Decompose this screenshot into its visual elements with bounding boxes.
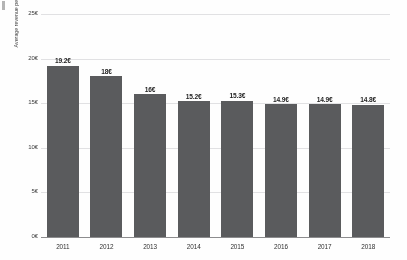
scan-artifact bbox=[2, 1, 5, 10]
x-tick-label-2013: 2013 bbox=[127, 243, 173, 250]
y-tick-label-20eur: 20€ bbox=[16, 55, 38, 61]
bar-2018[interactable] bbox=[352, 105, 384, 237]
bar-group-2015[interactable]: 15.3€ bbox=[221, 14, 253, 237]
bar-2014[interactable] bbox=[178, 101, 210, 237]
y-tick-label-0eur: 0€ bbox=[16, 233, 38, 239]
bar-group-2011[interactable]: 19.2€ bbox=[47, 14, 79, 237]
bar-chart: Average revenue per user in euros per mo… bbox=[0, 0, 407, 260]
bar-value-label-2013: 16€ bbox=[127, 86, 173, 93]
x-tick-label-2016: 2016 bbox=[258, 243, 304, 250]
gridline-0eur bbox=[41, 237, 390, 238]
bar-group-2014[interactable]: 15.2€ bbox=[178, 14, 210, 237]
y-tick-label-5eur: 5€ bbox=[16, 188, 38, 194]
bar-2016[interactable] bbox=[265, 104, 297, 237]
bar-value-label-2015: 15.3€ bbox=[214, 92, 260, 99]
bar-group-2013[interactable]: 16€ bbox=[134, 14, 166, 237]
bar-group-2018[interactable]: 14.8€ bbox=[352, 14, 384, 237]
y-tick-label-15eur: 15€ bbox=[16, 99, 38, 105]
y-tick-label-25eur: 25€ bbox=[16, 10, 38, 16]
bar-group-2016[interactable]: 14.9€ bbox=[265, 14, 297, 237]
x-tick-label-2012: 2012 bbox=[83, 243, 129, 250]
bar-value-label-2017: 14.9€ bbox=[302, 96, 348, 103]
plot-area: 19.2€18€16€15.2€15.3€14.9€14.9€14.8€ bbox=[41, 14, 390, 237]
bar-value-label-2016: 14.9€ bbox=[258, 96, 304, 103]
bar-2015[interactable] bbox=[221, 101, 253, 237]
bar-value-label-2018: 14.8€ bbox=[345, 96, 391, 103]
x-tick-label-2011: 2011 bbox=[40, 243, 86, 250]
bar-2017[interactable] bbox=[309, 104, 341, 237]
x-tick-label-2018: 2018 bbox=[345, 243, 391, 250]
x-tick-label-2015: 2015 bbox=[214, 243, 260, 250]
bar-value-label-2012: 18€ bbox=[83, 68, 129, 75]
x-tick-label-2017: 2017 bbox=[302, 243, 348, 250]
bar-group-2012[interactable]: 18€ bbox=[90, 14, 122, 237]
bar-2013[interactable] bbox=[134, 94, 166, 237]
x-tick-label-2014: 2014 bbox=[171, 243, 217, 250]
bar-value-label-2011: 19.2€ bbox=[40, 57, 86, 64]
y-tick-label-10eur: 10€ bbox=[16, 144, 38, 150]
bar-value-label-2014: 15.2€ bbox=[171, 93, 217, 100]
bar-2011[interactable] bbox=[47, 66, 79, 237]
bar-2012[interactable] bbox=[90, 76, 122, 237]
bar-group-2017[interactable]: 14.9€ bbox=[309, 14, 341, 237]
